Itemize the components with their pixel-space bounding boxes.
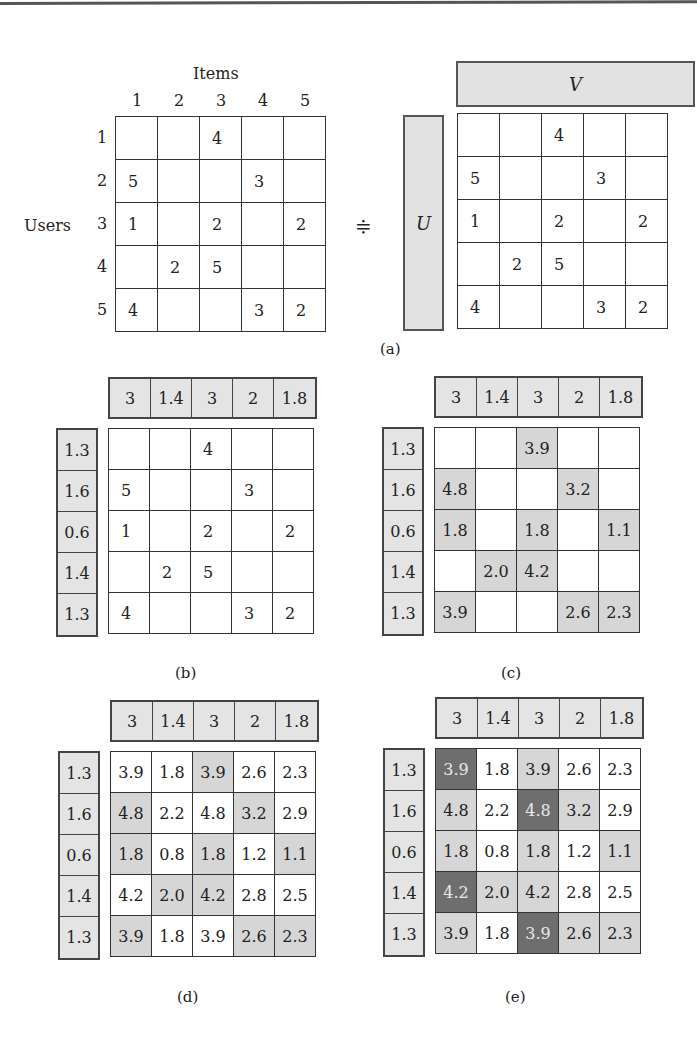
page-top-rule xyxy=(0,0,697,5)
rating-cell xyxy=(500,157,542,200)
v-factor-value: 3 xyxy=(518,378,559,416)
rating-cell: 2.6 xyxy=(559,749,600,790)
u-factor-value: 1.3 xyxy=(58,594,96,635)
item-column-header: 1 xyxy=(132,91,142,110)
caption-b: (b) xyxy=(175,664,196,682)
observed-cell: 2.3 xyxy=(275,916,316,957)
users-axis-label: Users xyxy=(24,216,71,235)
rating-cell xyxy=(284,160,326,203)
rating-cell xyxy=(542,157,584,200)
rating-cell: 1.2 xyxy=(234,834,275,875)
u-factor-value: 1.3 xyxy=(60,753,98,794)
v-factor-value: 1.4 xyxy=(151,379,192,417)
u-factor-value: 1.3 xyxy=(384,593,422,634)
rating-cell: 2 xyxy=(191,511,232,552)
v-factor-value: 1.4 xyxy=(477,378,518,416)
observed-cell: 1.8 xyxy=(518,831,559,872)
u-factor-value: 1.6 xyxy=(384,470,422,511)
observed-cell: 1.1 xyxy=(275,834,316,875)
rating-cell xyxy=(584,114,626,157)
observed-cell: 2.6 xyxy=(559,913,600,954)
rating-cell xyxy=(242,246,284,289)
rating-cell: 2.5 xyxy=(275,875,316,916)
observed-cell: 3.9 xyxy=(111,916,152,957)
rating-cell: 2.9 xyxy=(600,790,641,831)
rating-cell xyxy=(458,243,500,286)
rating-cell: 2.2 xyxy=(477,790,518,831)
rating-cell xyxy=(476,469,517,510)
rating-cell xyxy=(500,114,542,157)
observed-cell: 3.9 xyxy=(435,592,476,633)
rating-cell xyxy=(517,469,558,510)
rating-cell xyxy=(558,551,599,592)
observed-cell: 4.8 xyxy=(436,790,477,831)
rating-cell xyxy=(191,470,232,511)
observed-cell: 4.2 xyxy=(193,875,234,916)
u-factor-value: 0.6 xyxy=(58,512,96,553)
observed-cell: 4.8 xyxy=(111,793,152,834)
observed-cell: 1.8 xyxy=(193,834,234,875)
recommended-cell: 4.2 xyxy=(436,872,477,913)
item-column-header: 5 xyxy=(300,91,310,110)
v-factor-vector: 31.4321.8 xyxy=(435,697,644,739)
rating-cell xyxy=(626,157,668,200)
rating-cell: 4 xyxy=(109,593,150,634)
observed-cell: 1.1 xyxy=(599,510,640,551)
rating-cell: 3 xyxy=(584,157,626,200)
rating-cell xyxy=(435,551,476,592)
rating-cell xyxy=(476,510,517,551)
u-factor-value: 1.6 xyxy=(60,794,98,835)
observed-cell: 2.6 xyxy=(234,916,275,957)
rating-cell xyxy=(284,246,326,289)
u-factor-value: 1.3 xyxy=(60,917,98,958)
rating-cell xyxy=(584,200,626,243)
rating-cell xyxy=(435,428,476,469)
rating-cell: 3 xyxy=(242,289,284,332)
rating-cell xyxy=(150,511,191,552)
rating-cell xyxy=(200,160,242,203)
rating-cell xyxy=(599,551,640,592)
u-factor-value: 1.4 xyxy=(384,552,422,593)
u-factor-vector: 1.31.60.61.41.3 xyxy=(58,751,100,960)
rating-cell xyxy=(626,114,668,157)
rating-cell: 2.6 xyxy=(234,752,275,793)
rating-cell: 1 xyxy=(116,203,158,246)
rating-cell xyxy=(158,203,200,246)
rating-cell xyxy=(242,203,284,246)
v-factor-value: 3 xyxy=(112,702,153,740)
rating-cell: 2.3 xyxy=(275,752,316,793)
observed-cell: 1.8 xyxy=(111,834,152,875)
rating-cell: 5 xyxy=(191,552,232,593)
user-row-header: 5 xyxy=(97,300,107,319)
rating-cell xyxy=(232,511,273,552)
rating-cell: 2.3 xyxy=(600,749,641,790)
observed-cell: 3.2 xyxy=(559,790,600,831)
rating-cell: 3 xyxy=(242,160,284,203)
u-factor-value: 1.3 xyxy=(384,429,422,470)
rating-cell: 3.9 xyxy=(111,752,152,793)
v-factor-value: 3 xyxy=(194,702,235,740)
observed-cell: 3.9 xyxy=(193,752,234,793)
rating-cell: 1.2 xyxy=(559,831,600,872)
rating-cell: 1 xyxy=(109,511,150,552)
rating-cell xyxy=(284,117,326,160)
v-factor-vector: 31.4321.8 xyxy=(110,700,319,742)
rating-cell: 3 xyxy=(584,286,626,329)
rating-cell: 2 xyxy=(500,243,542,286)
rating-cell xyxy=(158,160,200,203)
rating-cell: 4 xyxy=(116,289,158,332)
rating-cell: 2 xyxy=(150,552,191,593)
u-factor-vector: 1.31.60.61.41.3 xyxy=(382,427,424,636)
rating-cell xyxy=(109,552,150,593)
caption-a: (a) xyxy=(380,340,401,358)
u-factor-vector: 1.31.60.61.41.3 xyxy=(56,428,98,637)
rating-cell xyxy=(200,289,242,332)
u-factor-box: U xyxy=(403,115,444,331)
user-row-header: 4 xyxy=(97,257,107,276)
rating-cell xyxy=(158,117,200,160)
observed-cell: 1.1 xyxy=(600,831,641,872)
rating-cell xyxy=(599,428,640,469)
rating-cell: 3 xyxy=(232,470,273,511)
u-factor-value: 0.6 xyxy=(385,832,423,873)
observed-cell: 2.0 xyxy=(476,551,517,592)
